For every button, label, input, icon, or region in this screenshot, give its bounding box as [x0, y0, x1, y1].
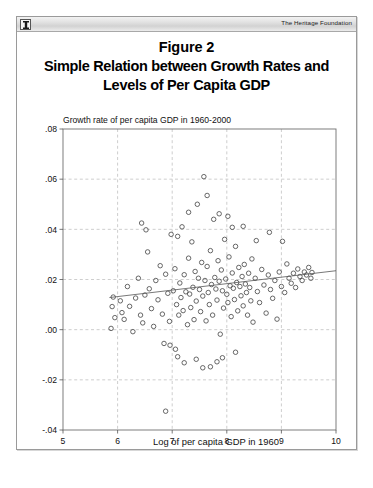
y-tick-label: .04: [45, 225, 57, 235]
y-tick-label: .06: [45, 174, 57, 184]
x-tick-label: 10: [331, 436, 341, 446]
x-axis-title: Log of per capita GDP in 1960: [153, 436, 279, 447]
y-tick-label: -.02: [42, 375, 57, 385]
heritage-column-logo-icon: [20, 19, 31, 30]
grid-lines: [63, 129, 336, 430]
figure-number: Figure 2: [17, 38, 356, 57]
regression-line: [109, 271, 336, 298]
brand-label: The Heritage Foundation: [281, 19, 352, 26]
heritage-brand-bar: The Heritage Foundation: [17, 17, 356, 32]
chart-canvas: 5678910 -.04-.02.00.02.04.06.08 Growth r…: [17, 97, 358, 449]
x-tick-label: 5: [61, 436, 66, 446]
y-axis-caption: Growth rate of per capita GDP in 1960-20…: [63, 115, 231, 125]
figure-title-first-line: Simple Relation between Growth Rates and: [17, 57, 356, 76]
x-tick-label: 9: [279, 436, 284, 446]
figure-card: The Heritage Foundation Figure 2 Simple …: [16, 16, 357, 450]
y-tick-label: .00: [45, 325, 57, 335]
figure-title-second-line: Levels of Per Capita GDP: [17, 76, 356, 95]
y-tick-label: .08: [45, 124, 57, 134]
y-axis-ticks: -.04-.02.00.02.04.06.08: [42, 124, 63, 435]
y-tick-label: .02: [45, 275, 57, 285]
figure-title-block: Figure 2 Simple Relation between Growth …: [17, 38, 356, 95]
scatter-chart: 5678910 -.04-.02.00.02.04.06.08 Growth r…: [17, 97, 358, 449]
logo-glyph: [23, 21, 29, 29]
x-tick-label: 6: [115, 436, 120, 446]
y-tick-label: -.04: [42, 425, 57, 435]
